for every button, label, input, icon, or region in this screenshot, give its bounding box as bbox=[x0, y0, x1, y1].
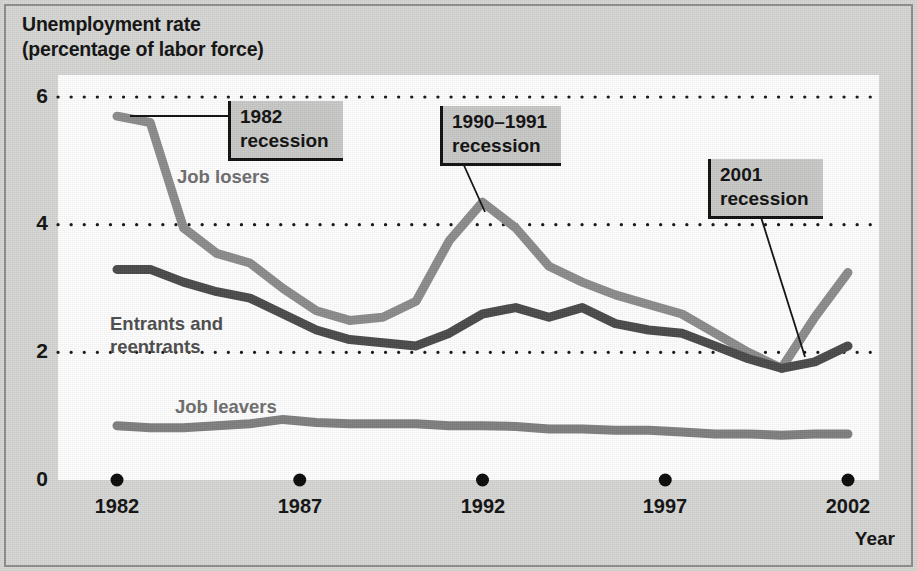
callout-1990-line-2: recession bbox=[452, 134, 547, 158]
unemployment-rate-figure: Unemployment rate (percentage of labor f… bbox=[0, 0, 917, 571]
callout-2001-line-2: recession bbox=[720, 187, 809, 211]
callout-1990-line-1: 1990–1991 bbox=[452, 110, 547, 134]
callout-1982-recession: 1982 recession bbox=[228, 101, 343, 161]
series-label-entrants-and-reentrants: Entrants and reentrants bbox=[110, 312, 223, 358]
x-tick-label-1982: 1982 bbox=[77, 495, 157, 518]
callout-2001-recession: 2001 recession bbox=[708, 159, 823, 219]
callout-1990-1991-recession: 1990–1991 recession bbox=[440, 106, 561, 166]
x-tick-label-1987: 1987 bbox=[260, 495, 340, 518]
y-tick-label-2: 2 bbox=[22, 339, 48, 363]
y-tick-label-6: 6 bbox=[22, 84, 48, 108]
callout-2001-line-1: 2001 bbox=[720, 163, 809, 187]
x-tick-label-2002: 2002 bbox=[808, 495, 888, 518]
callout-1982-line-2: recession bbox=[240, 129, 329, 153]
y-tick-label-0: 0 bbox=[22, 467, 48, 491]
x-tick-label-1992: 1992 bbox=[443, 495, 523, 518]
x-axis-label: Year bbox=[855, 528, 895, 550]
chart-title-line-2: (percentage of labor force) bbox=[22, 37, 582, 62]
chart-title-line-1: Unemployment rate bbox=[22, 12, 582, 37]
series-label-job-leavers: Job leavers bbox=[175, 395, 277, 418]
x-tick-label-1997: 1997 bbox=[625, 495, 705, 518]
series-label-job-losers: Job losers bbox=[177, 165, 270, 188]
series-label-entrants-line-2: reentrants bbox=[110, 335, 223, 358]
series-label-entrants-line-1: Entrants and bbox=[110, 312, 223, 335]
callout-1982-line-1: 1982 bbox=[240, 105, 329, 129]
y-tick-label-4: 4 bbox=[22, 211, 48, 235]
page-title: Unemployment rate (percentage of labor f… bbox=[22, 12, 582, 62]
